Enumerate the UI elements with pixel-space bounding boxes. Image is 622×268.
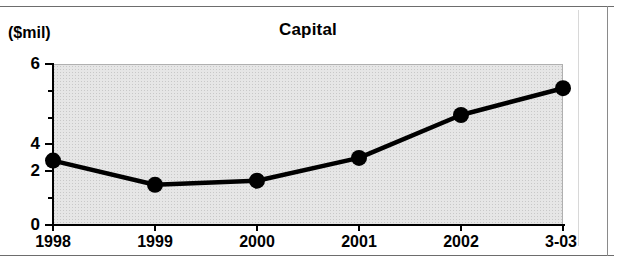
data-point-2002 (453, 107, 469, 123)
chart-figure: ($mil) Capital 6 4 2 0 1998 1999 2000 20… (0, 0, 622, 268)
series-line (53, 88, 563, 185)
data-point-2000 (249, 173, 265, 189)
data-point-2001 (351, 150, 367, 166)
data-point-1998 (45, 153, 61, 169)
data-series-capital (0, 0, 622, 268)
data-point-1999 (147, 177, 163, 193)
data-point-3-03 (555, 80, 571, 96)
